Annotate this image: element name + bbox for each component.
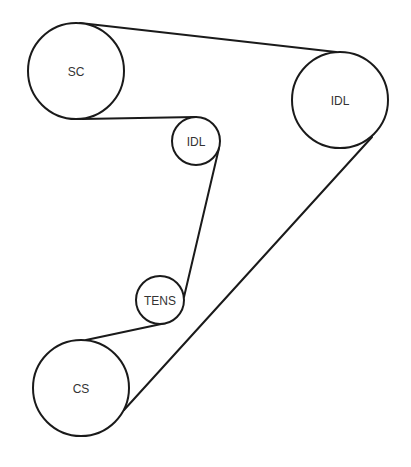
belt-segment-cs-to-idl-large [124, 137, 372, 410]
pulley-idl-large: IDL [292, 52, 388, 148]
belt-segment-idl-small-to-tens [184, 148, 219, 297]
pulley-idl-small: IDL [172, 117, 220, 165]
pulley-label: SC [68, 65, 85, 79]
belt-segment-tens-to-cs [86, 323, 166, 340]
belt-segment-sc-to-idl-small [82, 117, 196, 119]
pulley-label: CS [73, 382, 90, 396]
pulleys: SCIDLIDLTENSCS [28, 23, 388, 436]
pulley-tens: TENS [136, 276, 184, 324]
pulley-label: IDL [187, 135, 206, 149]
pulley-cs: CS [33, 340, 129, 436]
belt-routing-diagram: SCIDLIDLTENSCS [0, 0, 411, 467]
pulley-label: IDL [331, 94, 350, 108]
pulley-label: TENS [144, 294, 176, 308]
pulley-sc: SC [28, 23, 124, 119]
